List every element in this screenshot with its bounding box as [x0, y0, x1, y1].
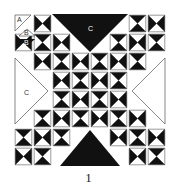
label-a: A [17, 16, 22, 23]
label-b-dark: B [24, 39, 29, 46]
label-c-top: C [88, 25, 93, 32]
figure-caption: 1 [0, 170, 177, 186]
quilt-block-diagram: C C A B B [0, 0, 177, 187]
label-b-light: B [24, 29, 29, 36]
label-c-left: C [24, 89, 29, 96]
